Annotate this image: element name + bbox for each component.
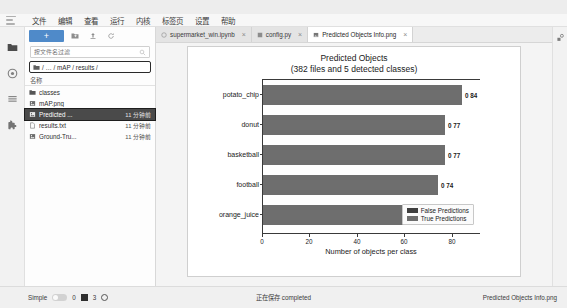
image-file-icon [29, 133, 36, 140]
image-file-icon [29, 111, 36, 118]
list-item[interactable]: mAP.png [25, 98, 155, 109]
bar-value-label: 0 74 [441, 182, 453, 189]
bar-true-predictions [263, 175, 438, 195]
menu-item-tabs[interactable]: 标签页 [156, 15, 189, 26]
menu-bar: 文件 编辑 查看 运行 内核 标签页 设置 帮助 [0, 14, 567, 27]
breadcrumb[interactable]: / … / mAP / results / [29, 61, 151, 73]
jupyterlab-logo-icon [6, 16, 18, 25]
notebook-icon [161, 32, 167, 38]
y-tick-label: potato_chip [223, 85, 259, 105]
y-tick-label: football [236, 175, 259, 195]
legend-label: True Predictions [421, 215, 467, 222]
legend-swatch-true [407, 216, 418, 221]
chart-legend: False Predictions True Predictions [402, 204, 474, 225]
menu-item-kernel[interactable]: 内核 [130, 15, 156, 26]
window-titlebar [0, 0, 567, 14]
plot-area: potato_chip 0 84 donut 0 77 ba [262, 79, 480, 234]
image-viewer: Predicted Objects (382 files and 5 detec… [156, 43, 552, 286]
list-item[interactable]: results.txt 11 分钟前 [25, 120, 155, 131]
file-filter-input[interactable] [34, 49, 139, 55]
active-document-name: Predicted Objects Info.png [483, 294, 567, 301]
x-axis: 0 20 40 60 80 Number of objects per clas… [262, 234, 480, 254]
tab-label: config.py [266, 31, 291, 38]
x-tick-label: 0 [260, 238, 264, 245]
close-icon[interactable]: × [298, 31, 302, 38]
bar-row: football 0 74 [263, 175, 453, 195]
close-icon[interactable]: × [242, 31, 246, 38]
tab-config-py[interactable]: config.py × [252, 27, 308, 42]
y-tick-label: basketball [227, 145, 259, 165]
bar-true-predictions [263, 145, 445, 165]
x-tick-mark [452, 234, 453, 237]
activity-bar [0, 27, 25, 286]
bar-true-predictions [263, 85, 462, 105]
menu-item-settings[interactable]: 设置 [189, 15, 215, 26]
image-file-icon [313, 32, 319, 38]
upload-icon[interactable] [85, 30, 100, 43]
file-browser-icon[interactable] [1, 34, 23, 60]
close-icon[interactable]: × [403, 31, 407, 38]
folder-icon [29, 89, 36, 96]
legend-label: False Predictions [421, 207, 469, 214]
folder-icon [33, 64, 40, 71]
y-tick-label: donut [241, 115, 259, 135]
python-file-icon [257, 32, 263, 38]
chart-image: Predicted Objects (382 files and 5 detec… [187, 46, 521, 277]
jupyterlab-window: 文件 编辑 查看 运行 内核 标签页 设置 帮助 [0, 0, 567, 308]
file-browser-toolbar [25, 27, 155, 45]
file-filter-box[interactable] [30, 46, 150, 58]
x-tick-mark [309, 234, 310, 237]
file-name: results.txt [39, 122, 122, 129]
menu-item-help[interactable]: 帮助 [215, 15, 241, 26]
file-list: classes mAP.png Predicted ... 11 分钟前 res… [25, 86, 155, 142]
main-area: supermarket_win.ipynb × config.py × Pred… [156, 27, 552, 286]
y-tick-mark [260, 154, 263, 155]
x-tick-mark [357, 234, 358, 237]
y-tick-label: orange_juice [219, 205, 259, 225]
tab-label: supermarket_win.ipynb [170, 31, 235, 38]
image-file-icon [29, 100, 36, 107]
bar-value-label: 0 77 [448, 152, 460, 159]
new-folder-icon[interactable] [67, 30, 82, 43]
file-name: Predicted ... [39, 111, 122, 118]
tab-predicted-objects-info[interactable]: Predicted Objects Info.png × [308, 27, 413, 42]
bar-row: basketball 0 77 [263, 145, 460, 165]
list-item[interactable]: classes [25, 87, 155, 98]
running-terminals-icon[interactable] [1, 60, 23, 86]
bar-row: potato_chip 0 84 [263, 85, 477, 105]
property-inspector-icon[interactable] [556, 33, 565, 42]
tab-bar: supermarket_win.ipynb × config.py × Pred… [156, 27, 552, 43]
new-launcher-button[interactable] [29, 30, 64, 42]
bar-value-label: 0 77 [448, 122, 460, 129]
breadcrumb-path: / … / mAP / results / [42, 64, 98, 71]
list-item[interactable]: Ground-Tru... 11 分钟前 [25, 131, 155, 142]
menu-item-edit[interactable]: 编辑 [52, 15, 78, 26]
extension-manager-icon[interactable] [1, 112, 23, 138]
x-tick-label: 80 [448, 238, 455, 245]
x-tick-mark [262, 234, 263, 237]
bar-row: donut 0 77 [263, 115, 460, 135]
list-item-selected[interactable]: Predicted ... 11 分钟前 [25, 109, 155, 120]
tab-label: Predicted Objects Info.png [322, 31, 396, 38]
chart-title: Predicted Objects (382 files and 5 detec… [188, 53, 520, 75]
tab-supermarket-notebook[interactable]: supermarket_win.ipynb × [156, 27, 252, 42]
x-tick-label: 60 [400, 238, 407, 245]
command-palette-icon[interactable] [1, 86, 23, 112]
x-axis-title: Number of objects per class [262, 247, 480, 256]
refresh-icon[interactable] [103, 30, 118, 43]
y-tick-mark [260, 214, 263, 215]
x-tick-label: 40 [353, 238, 360, 245]
menu-item-file[interactable]: 文件 [26, 15, 52, 26]
menu-item-view[interactable]: 查看 [78, 15, 104, 26]
legend-swatch-false [407, 208, 418, 213]
legend-entry-true: True Predictions [407, 215, 469, 222]
chart-title-main: Predicted Objects [188, 53, 520, 64]
y-tick-mark [260, 94, 263, 95]
chart-subtitle: (382 files and 5 detected classes) [188, 64, 520, 75]
file-browser-panel: / … / mAP / results / 名称 classes mAP.png… [25, 27, 156, 286]
file-modified: 11 分钟前 [125, 132, 151, 141]
status-bar: Simple 0 3 正在保存 completed Predicted Obje… [0, 286, 567, 308]
file-name: classes [39, 89, 148, 96]
menu-item-run[interactable]: 运行 [104, 15, 130, 26]
x-tick-mark [404, 234, 405, 237]
